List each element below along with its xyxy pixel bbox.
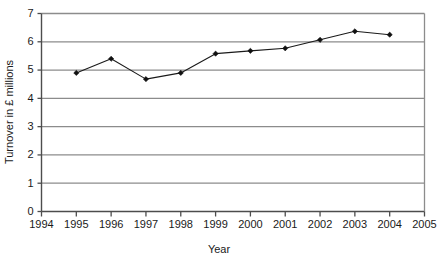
data-point-1998 — [178, 70, 183, 75]
x-tick-label-2001: 2001 — [273, 218, 297, 230]
chart-canvas: 01234567 1994199519961997199819992000200… — [0, 0, 438, 262]
x-tick-label-1995: 1995 — [64, 218, 88, 230]
plot-frame — [42, 14, 425, 212]
data-point-2000 — [248, 48, 253, 53]
y-tick-label-4: 4 — [27, 92, 33, 104]
line-chart: 01234567 1994199519961997199819992000200… — [0, 0, 438, 262]
y-tick-label-0: 0 — [27, 205, 33, 217]
data-point-1996 — [109, 56, 114, 61]
data-point-1995 — [74, 70, 79, 75]
x-tick-label-1998: 1998 — [169, 218, 193, 230]
y-tick-label-3: 3 — [27, 120, 33, 132]
x-tick-label-1994: 1994 — [29, 218, 53, 230]
y-tick-label-7: 7 — [27, 7, 33, 19]
x-axis-tick-labels: 1994199519961997199819992000200120022003… — [29, 218, 436, 230]
y-tick-label-2: 2 — [27, 148, 33, 160]
x-tick-label-1997: 1997 — [134, 218, 158, 230]
gridlines-group — [42, 14, 425, 184]
x-tick-label-2002: 2002 — [308, 218, 332, 230]
y-tick-label-1: 1 — [27, 177, 33, 189]
y-tick-label-6: 6 — [27, 35, 33, 47]
data-markers-turnover — [74, 29, 393, 82]
x-tick-label-2005: 2005 — [412, 218, 436, 230]
data-point-2001 — [283, 46, 288, 51]
x-tick-label-2000: 2000 — [238, 218, 262, 230]
y-axis-tick-labels: 01234567 — [27, 7, 33, 217]
x-tick-label-2004: 2004 — [377, 218, 401, 230]
y-tick-label-5: 5 — [27, 63, 33, 75]
data-point-1997 — [143, 77, 148, 82]
x-tick-label-1996: 1996 — [99, 218, 123, 230]
x-tick-label-2003: 2003 — [343, 218, 367, 230]
data-line-turnover — [76, 31, 389, 79]
data-point-2003 — [352, 29, 357, 34]
data-point-1999 — [213, 51, 218, 56]
y-axis-title: Turnover in £ millions — [3, 59, 15, 164]
x-axis-title: Year — [208, 243, 231, 255]
x-axis-ticks — [42, 212, 425, 217]
x-tick-label-1999: 1999 — [203, 218, 227, 230]
data-point-2004 — [387, 32, 392, 37]
